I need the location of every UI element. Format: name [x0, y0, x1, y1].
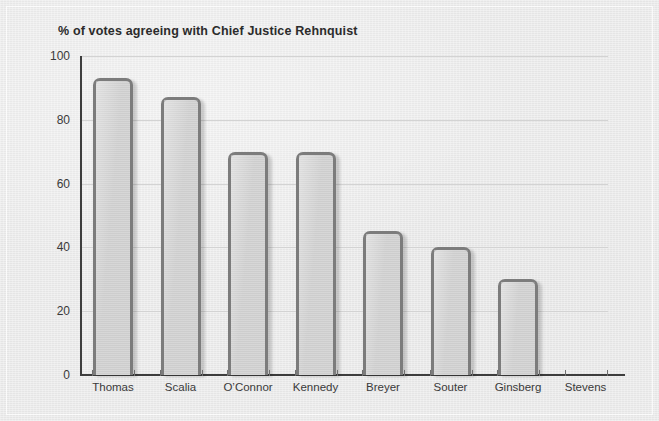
gridline	[80, 247, 608, 248]
x-axis-tick	[134, 370, 135, 376]
gridline	[80, 184, 608, 185]
y-axis-tick-label: 0	[14, 368, 70, 382]
plot-area: 020406080100 ThomasScaliaO’ConnorKennedy…	[0, 0, 659, 421]
bar-ginsberg	[498, 279, 538, 375]
gridline	[80, 56, 608, 57]
bar-thomas	[93, 78, 133, 375]
bar-breyer	[363, 231, 403, 375]
y-axis-tick-label: 100	[14, 49, 70, 63]
bar-o-connor	[228, 152, 268, 375]
bar-souter	[431, 247, 471, 375]
x-axis-tick	[607, 370, 608, 376]
x-axis-tick	[404, 370, 405, 376]
y-axis-tick-label: 40	[14, 240, 70, 254]
bar-surface	[501, 282, 535, 375]
x-axis-tick	[430, 370, 431, 376]
x-axis-tick	[362, 370, 363, 376]
y-axis-tick-label: 60	[14, 177, 70, 191]
x-axis-tick	[227, 370, 228, 376]
bar-surface	[96, 81, 130, 375]
x-axis-tick	[565, 370, 566, 376]
y-axis-tick-label: 20	[14, 304, 70, 318]
x-axis-tick	[202, 370, 203, 376]
x-axis-tick	[497, 370, 498, 376]
x-axis-tick	[539, 370, 540, 376]
gridline	[80, 120, 608, 121]
bar-kennedy	[296, 152, 336, 375]
x-axis-tick	[160, 370, 161, 376]
bar-surface	[434, 250, 468, 375]
x-axis-tick	[295, 370, 296, 376]
bar-surface	[366, 234, 400, 375]
bar-scalia	[161, 97, 201, 375]
x-axis-tick	[92, 370, 93, 376]
y-axis-line	[80, 56, 82, 375]
y-axis-tick-label: 80	[14, 113, 70, 127]
x-axis-tick	[337, 370, 338, 376]
x-axis-tick	[269, 370, 270, 376]
bar-surface	[231, 155, 265, 375]
bar-surface	[164, 100, 198, 375]
x-axis-tick	[472, 370, 473, 376]
x-axis-label-stevens: Stevens	[540, 381, 632, 393]
chart-figure: % of votes agreeing with Chief Justice R…	[0, 0, 659, 421]
bar-surface	[299, 155, 333, 375]
